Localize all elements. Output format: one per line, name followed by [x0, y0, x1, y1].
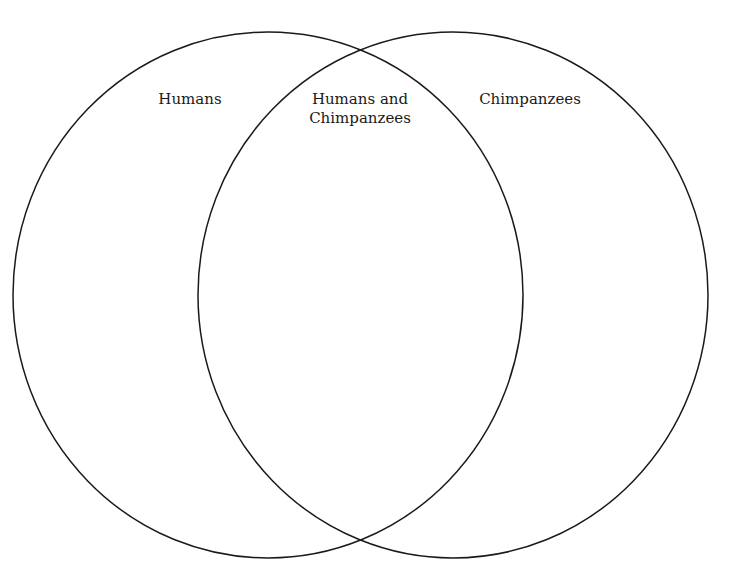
venn-diagram: [0, 0, 739, 581]
intersection-label: Humans and Chimpanzees: [300, 90, 420, 128]
chimpanzees-label: Chimpanzees: [470, 90, 590, 109]
humans-label: Humans: [150, 90, 230, 109]
intersection-label-line1: Humans and: [300, 90, 420, 109]
chimpanzees-circle: [198, 32, 708, 558]
intersection-label-line2: Chimpanzees: [300, 109, 420, 128]
humans-circle: [13, 32, 523, 558]
